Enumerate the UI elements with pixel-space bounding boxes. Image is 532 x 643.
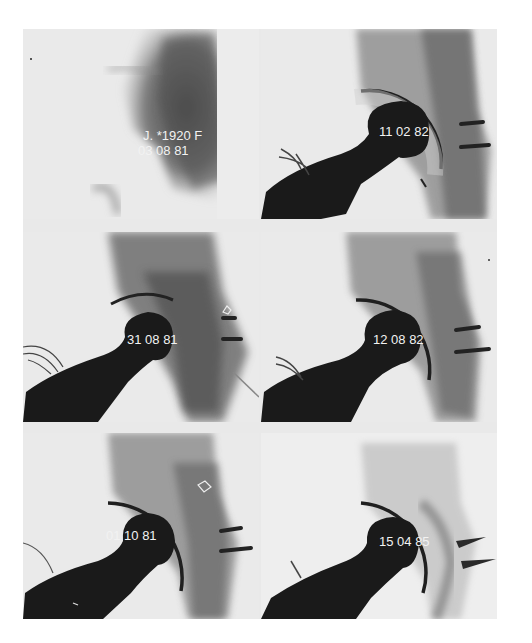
radiograph-figure: J. *1920 F 03 08 81 11 02 82 bbox=[23, 29, 497, 619]
xray-image-prosthesis bbox=[23, 232, 259, 422]
date-label: 15 04 85 bbox=[379, 535, 430, 548]
xray-image-prosthesis bbox=[261, 232, 497, 422]
date-label: 31 08 81 bbox=[127, 333, 178, 346]
radiograph-panel-middle-left: 31 08 81 bbox=[23, 232, 259, 422]
date-label: 12 08 82 bbox=[373, 333, 424, 346]
xray-image-prosthesis bbox=[23, 433, 259, 619]
date-label: 01 10 81 bbox=[106, 529, 157, 542]
date-label: 03 08 81 bbox=[138, 144, 189, 157]
radiograph-panel-top-right: 11 02 82 bbox=[261, 29, 497, 219]
xray-image-prosthesis bbox=[261, 433, 497, 619]
radiograph-panel-top-left: J. *1920 F 03 08 81 bbox=[23, 29, 259, 219]
radiograph-panel-bottom-right: 15 04 85 bbox=[261, 433, 497, 619]
date-label: 11 02 82 bbox=[379, 125, 429, 138]
xray-image-preop bbox=[23, 29, 259, 219]
radiograph-panel-middle-right: 12 08 82 bbox=[261, 232, 497, 422]
radiograph-panel-bottom-left: 01 10 81 bbox=[23, 433, 259, 619]
patient-id-label: J. *1920 F bbox=[143, 129, 202, 142]
